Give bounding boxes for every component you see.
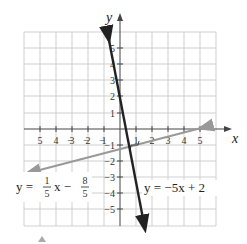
svg-text:8: 8 — [83, 175, 88, 186]
svg-text:5: 5 — [38, 135, 43, 146]
svg-text:2: 2 — [110, 91, 115, 102]
x-axis-label: x — [231, 131, 239, 146]
svg-text:1: 1 — [45, 175, 50, 186]
svg-text:4: 4 — [54, 135, 59, 146]
x-axis-arrow-icon — [224, 126, 232, 132]
svg-text:3: 3 — [110, 75, 115, 86]
svg-text:−: − — [83, 135, 89, 146]
line-y-one-fifth-x-minus-eight-fifths — [32, 127, 205, 172]
svg-text:y =: y = — [16, 179, 33, 194]
equation-label-gray-line: y = 1 5 x − 8 5 — [14, 172, 92, 202]
svg-text:−3: −3 — [104, 172, 115, 183]
svg-text:−5: −5 — [104, 204, 115, 215]
svg-text:−1: −1 — [104, 140, 115, 151]
triangle-mark-icon — [38, 236, 46, 242]
y-axis-label: y — [104, 10, 113, 25]
svg-text:−4: −4 — [104, 188, 115, 199]
coordinate-plane: x y 5 4 3 2 1 1 2 3 4 5 − − − 5 4 3 2 1 — [0, 0, 247, 244]
svg-text:−2: −2 — [104, 156, 115, 167]
svg-text:1: 1 — [110, 108, 115, 119]
svg-text:y = −5x + 2: y = −5x + 2 — [144, 180, 205, 195]
y-axis-arrow-icon — [117, 13, 123, 21]
svg-text:x −: x − — [54, 179, 71, 194]
svg-text:5: 5 — [83, 188, 88, 199]
svg-text:4: 4 — [182, 135, 187, 146]
svg-text:−: − — [67, 135, 73, 146]
equation-label-dark-line: y = −5x + 2 — [142, 180, 228, 196]
svg-text:5: 5 — [198, 135, 203, 146]
svg-text:5: 5 — [45, 188, 50, 199]
